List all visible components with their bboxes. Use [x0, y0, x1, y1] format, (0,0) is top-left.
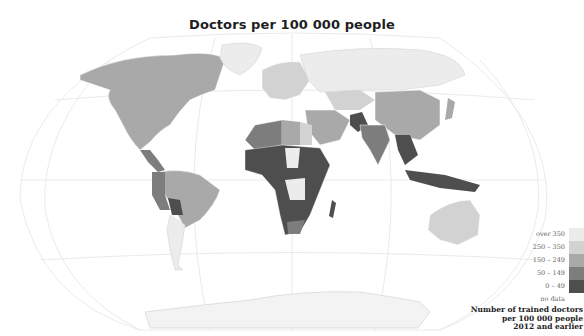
- region-north-africa: [245, 120, 282, 150]
- legend-label: 150 – 249: [533, 256, 565, 264]
- region-egypt: [300, 122, 312, 145]
- region-japan: [445, 98, 455, 120]
- region-chad: [285, 148, 300, 168]
- legend-item: 50 – 149: [474, 267, 584, 280]
- legend-item: 0 – 49: [474, 280, 584, 293]
- region-greenland: [220, 43, 262, 75]
- region-india: [360, 125, 390, 165]
- region-russia: [300, 48, 465, 92]
- legend-label: 250 – 350: [533, 243, 565, 251]
- legend-caption: Number of trained doctors per 100 000 pe…: [471, 306, 583, 332]
- legend-swatch: [569, 280, 584, 293]
- region-australia: [428, 200, 480, 245]
- region-argentina: [167, 215, 185, 270]
- region-europe: [262, 62, 310, 100]
- legend-swatch: [569, 241, 584, 254]
- legend-swatch: [569, 254, 584, 267]
- region-central-asia: [325, 90, 375, 110]
- legend-no-data-label: no data: [540, 295, 565, 303]
- legend-label: over 350: [536, 230, 565, 238]
- region-libya: [282, 120, 300, 145]
- region-indonesia: [405, 170, 480, 192]
- region-north-america: [80, 53, 225, 150]
- legend-label: 50 – 149: [537, 269, 565, 277]
- region-south-africa: [287, 220, 305, 234]
- legend-item: over 350: [474, 228, 584, 241]
- legend-label: 0 – 49: [545, 282, 565, 290]
- region-antarctica: [145, 292, 430, 328]
- region-madagascar: [329, 200, 336, 218]
- region-southeast-asia: [395, 135, 418, 165]
- legend-item: 150 – 249: [474, 254, 584, 267]
- legend-item: 250 – 350: [474, 241, 584, 254]
- caption-line-3: 2012 and earlier: [471, 323, 583, 332]
- legend-swatch: [569, 228, 584, 241]
- legend-swatch: [569, 267, 584, 280]
- region-central-america: [140, 150, 165, 172]
